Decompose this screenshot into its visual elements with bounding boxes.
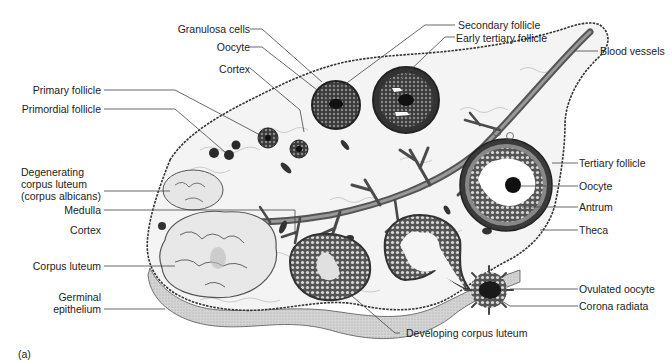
label-corona-radiata: Corona radiata: [579, 300, 648, 312]
label-primordial-follicle: Primordial follicle: [22, 103, 101, 115]
label-corpus-luteum: Corpus luteum: [33, 260, 101, 272]
developing-corpus-luteum: [290, 234, 370, 301]
label-blood-vessels: Blood vessels: [600, 45, 665, 57]
label-degenerating-corpus-luteum: Degenerating corpus luteum (corpus albic…: [21, 166, 101, 202]
label-oocyte-right: Oocyte: [579, 180, 612, 192]
label-secondary-follicle: Secondary follicle: [458, 19, 540, 31]
label-tertiary-follicle: Tertiary follicle: [579, 157, 646, 169]
label-cortex-top: Cortex: [219, 63, 250, 75]
label-germinal-epithelium: Germinal epithelium: [53, 291, 101, 315]
label-theca: Theca: [579, 224, 608, 236]
label-ovulated-oocyte: Ovulated oocyte: [579, 283, 655, 295]
ovary-diagram: Granulosa cells Oocyte Cortex Primary fo…: [0, 0, 672, 362]
label-antrum: Antrum: [579, 201, 613, 213]
tertiary-follicle: [460, 139, 552, 231]
secondary-follicle: [312, 81, 360, 129]
label-primary-follicle: Primary follicle: [33, 84, 101, 96]
label-developing-corpus-luteum: Developing corpus luteum: [406, 327, 527, 339]
corpus-luteum: [160, 211, 277, 297]
label-early-tertiary-follicle: Early tertiary follicle: [456, 32, 547, 44]
corpus-albicans: [163, 170, 223, 210]
panel-label: (a): [18, 348, 31, 360]
early-tertiary-follicle: [373, 67, 439, 133]
ovulated-oocyte: [465, 266, 513, 314]
label-medulla: Medulla: [64, 204, 101, 216]
label-cortex-left: Cortex: [70, 224, 101, 236]
label-granulosa-cells: Granulosa cells: [178, 23, 250, 35]
label-oocyte-top: Oocyte: [217, 41, 250, 53]
